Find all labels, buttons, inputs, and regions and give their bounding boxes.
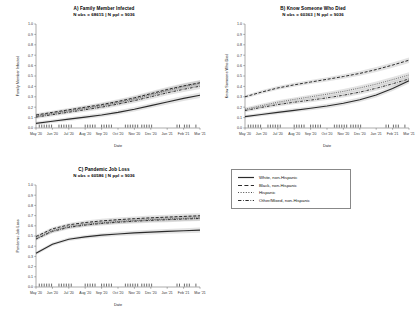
y-tick-label: 0.1: [28, 116, 33, 120]
x-tick-label: Feb '21: [178, 291, 190, 295]
x-tick-label: Aug '20: [288, 132, 300, 136]
x-tick-label: Jul '20: [64, 132, 74, 136]
y-tick-label: 0.7: [28, 214, 33, 218]
y-tick-label: 0.6: [28, 224, 33, 228]
legend-key-dotted-icon: [237, 189, 255, 196]
x-tick-label: Jan '21: [162, 291, 173, 295]
x-tick-label: Feb '21: [387, 132, 399, 136]
legend-key-dashdot-icon: [237, 197, 255, 204]
y-tick-label: 0.5: [237, 74, 242, 78]
x-tick-label: Jun '20: [256, 132, 267, 136]
y-tick-label: 0.0: [237, 126, 242, 130]
panel-b-confidence-bands: [245, 57, 409, 118]
x-tick-label: Jul '20: [273, 132, 283, 136]
figure-pandemic-experiences: A) Family Member Infected N obs = 68615 …: [0, 0, 417, 323]
x-tick-label: Oct '20: [113, 291, 124, 295]
y-tick-label: 0.7: [237, 54, 242, 58]
legend-item-other-mixed-non-hispanic: Other/Mixed, non-Hispanic: [237, 197, 345, 205]
y-tick-label: 0.0: [28, 126, 33, 130]
y-tick-label: 0.3: [237, 95, 242, 99]
panel-a-x-ticks: May '20Jun '20Jul '20Aug '20Sep '20Oct '…: [30, 128, 206, 136]
y-tick-label: 0.4: [28, 245, 33, 249]
panel-c-xlabel: Date: [114, 303, 122, 307]
x-tick-label: Nov '20: [338, 132, 350, 136]
panel-c-ylabel: Pandemic Job Loss: [16, 219, 20, 252]
x-tick-label: Mar '21: [194, 132, 206, 136]
y-tick-label: 1.0: [237, 22, 242, 26]
panel-c-y-ticks: 0.00.10.20.30.40.50.60.70.80.91.0: [28, 183, 36, 289]
y-tick-label: 0.1: [237, 116, 242, 120]
x-tick-label: Oct '20: [113, 132, 124, 136]
panel-a-svg: 0.00.10.20.30.40.50.60.70.80.91.0 May '2…: [0, 0, 208, 161]
x-tick-label: Aug '20: [79, 132, 91, 136]
y-tick-label: 0.2: [28, 106, 33, 110]
x-tick-label: Jan '21: [162, 132, 173, 136]
y-tick-label: 0.5: [28, 74, 33, 78]
y-tick-label: 0.6: [237, 64, 242, 68]
y-tick-label: 0.9: [237, 33, 242, 37]
x-tick-label: Nov '20: [129, 132, 141, 136]
y-tick-label: 0.9: [28, 194, 33, 198]
y-tick-label: 0.4: [237, 85, 242, 89]
panel-a-family-member-infected: A) Family Member Infected N obs = 68615 …: [0, 0, 208, 161]
x-tick-label: Dec '20: [354, 132, 366, 136]
y-tick-label: 0.1: [28, 275, 33, 279]
legend-label-other-mixed-non-hispanic: Other/Mixed, non-Hispanic: [259, 197, 310, 204]
x-tick-label: May '20: [30, 291, 42, 295]
y-tick-label: 0.8: [28, 204, 33, 208]
panel-c-svg: 0.00.10.20.30.40.50.60.70.80.91.0 May '2…: [0, 161, 208, 313]
y-tick-label: 0.8: [28, 43, 33, 47]
legend-label-black-non-hispanic: Black, non-Hispanic: [259, 182, 297, 189]
x-tick-label: Nov '20: [129, 291, 141, 295]
panel-c-x-ticks: May '20Jun '20Jul '20Aug '20Sep '20Oct '…: [30, 287, 206, 295]
panel-a-xlabel: Date: [114, 144, 122, 148]
panel-a-ylabel: Family Member Infected: [16, 56, 20, 97]
x-tick-label: Jan '21: [371, 132, 382, 136]
panel-b-x-ticks: May '20Jun '20Jul '20Aug '20Sep '20Oct '…: [239, 128, 415, 136]
y-tick-label: 0.3: [28, 255, 33, 259]
x-tick-label: Sep '20: [96, 291, 108, 295]
panel-b-y-ticks: 0.00.10.20.30.40.50.60.70.80.91.0: [237, 22, 245, 130]
legend-item-white-non-hispanic: White, non-Hispanic: [237, 174, 345, 182]
x-tick-label: Oct '20: [322, 132, 333, 136]
x-tick-label: Mar '21: [194, 291, 206, 295]
y-tick-label: 0.2: [237, 106, 242, 110]
x-tick-label: Sep '20: [96, 132, 108, 136]
x-tick-label: Feb '21: [178, 132, 190, 136]
x-tick-label: Jul '20: [64, 291, 74, 295]
y-tick-label: 1.0: [28, 22, 33, 26]
y-tick-label: 0.9: [28, 33, 33, 37]
x-tick-label: Jun '20: [47, 291, 58, 295]
x-tick-label: Mar '21: [403, 132, 415, 136]
panel-a-rug: [39, 125, 196, 128]
panel-b-xlabel: Date: [323, 144, 331, 148]
x-tick-label: Dec '20: [145, 291, 157, 295]
y-tick-label: 1.0: [28, 183, 33, 187]
panel-b-rug: [248, 125, 405, 128]
panel-b-ylabel: Know Someone Who Died: [225, 54, 229, 99]
panel-a-plot: 0.00.10.20.30.40.50.60.70.80.91.0 May '2…: [0, 0, 208, 161]
y-tick-label: 0.0: [28, 285, 33, 289]
x-tick-label: May '20: [239, 132, 251, 136]
y-tick-label: 0.8: [237, 43, 242, 47]
panel-b-know-someone-who-died: B) Know Someone Who Died N obs = 60363 |…: [209, 0, 417, 161]
panel-a-confidence-bands: [36, 80, 200, 125]
series-line: [36, 230, 200, 253]
legend-label-white-non-hispanic: White, non-Hispanic: [259, 174, 297, 181]
y-tick-label: 0.5: [28, 234, 33, 238]
y-tick-label: 0.4: [28, 85, 33, 89]
legend-cell: White, non-Hispanic Black, non-Hispanic …: [209, 161, 417, 313]
legend-key-dashed-icon: [237, 182, 255, 189]
x-tick-label: Dec '20: [145, 132, 157, 136]
legend-key-solid-icon: [237, 174, 255, 181]
legend-label-hispanic: Hispanic: [259, 189, 275, 196]
legend: White, non-Hispanic Black, non-Hispanic …: [231, 169, 351, 209]
y-tick-label: 0.2: [28, 265, 33, 269]
panel-c-plot: 0.00.10.20.30.40.50.60.70.80.91.0 May '2…: [0, 161, 208, 313]
y-tick-label: 0.3: [28, 95, 33, 99]
y-tick-label: 0.7: [28, 54, 33, 58]
panel-b-plot: 0.00.10.20.30.40.50.60.70.80.91.0 May '2…: [209, 0, 417, 161]
x-tick-label: May '20: [30, 132, 42, 136]
x-tick-label: Jun '20: [47, 132, 58, 136]
panel-c-pandemic-job-loss: C) Pandemic Job Loss N obs = 60586 | N p…: [0, 161, 208, 313]
